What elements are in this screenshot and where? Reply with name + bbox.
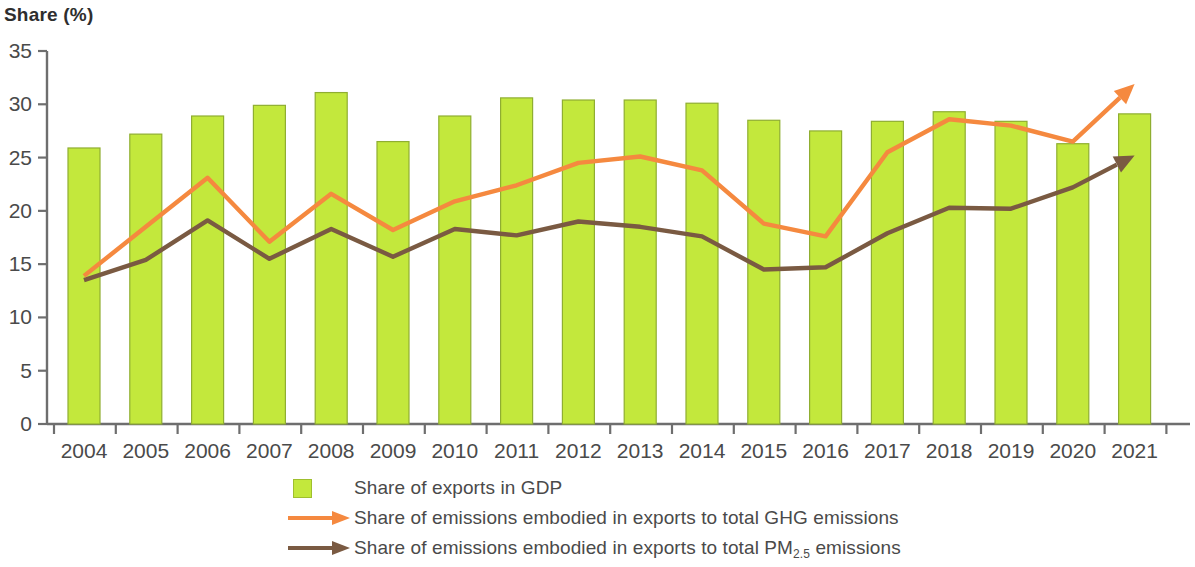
x-axis-ticks xyxy=(54,424,1166,434)
bar xyxy=(439,116,471,424)
chart-container: Share (%) 35302520151050 200420052006200… xyxy=(0,0,1195,567)
x-tick-label: 2010 xyxy=(431,439,478,462)
legend-label-ghg: Share of emissions embodied in exports t… xyxy=(354,507,899,529)
y-tick-label: 0 xyxy=(20,412,32,435)
chart-plot-area: 35302520151050 2004200520062007200820092… xyxy=(0,0,1195,470)
x-tick-label: 2020 xyxy=(1049,439,1096,462)
bar-series-exports-gdp xyxy=(68,93,1151,424)
bar xyxy=(995,121,1027,424)
legend-label-pm25: Share of emissions embodied in exports t… xyxy=(354,537,901,559)
bar xyxy=(130,134,162,424)
legend-label-pm25-prefix: Share of emissions embodied in exports t… xyxy=(354,537,793,558)
y-tick-label: 5 xyxy=(20,359,32,382)
bar xyxy=(810,131,842,424)
x-tick-label: 2019 xyxy=(988,439,1035,462)
x-tick-label: 2017 xyxy=(864,439,911,462)
y-tick-label: 20 xyxy=(9,199,32,222)
bar xyxy=(562,100,594,424)
y-tick-label: 10 xyxy=(9,305,32,328)
legend-label-pm25-suffix: emissions xyxy=(810,537,901,558)
legend-marker-brown-arrow xyxy=(288,537,354,559)
legend-marker-square xyxy=(288,479,354,498)
x-tick-label: 2021 xyxy=(1111,439,1158,462)
x-tick-label: 2007 xyxy=(246,439,293,462)
x-tick-label: 2004 xyxy=(61,439,108,462)
bar xyxy=(253,105,285,424)
legend-item-pm25: Share of emissions embodied in exports t… xyxy=(288,534,1108,562)
x-tick-label: 2009 xyxy=(370,439,417,462)
legend-marker-orange-arrow xyxy=(288,507,354,529)
x-tick-label: 2011 xyxy=(494,439,539,462)
y-tick-label: 35 xyxy=(9,39,32,62)
x-tick-label: 2016 xyxy=(802,439,849,462)
y-tick-label: 30 xyxy=(9,92,32,115)
x-tick-label: 2006 xyxy=(184,439,231,462)
chart-legend: Share of exports in GDP Share of emissio… xyxy=(288,474,1108,564)
x-tick-label: 2015 xyxy=(740,439,787,462)
x-tick-label: 2014 xyxy=(679,439,726,462)
arrow-right-brown-icon xyxy=(288,537,354,559)
bar xyxy=(68,148,100,424)
bar xyxy=(501,98,533,424)
bar xyxy=(686,103,718,424)
y-tick-label: 25 xyxy=(9,146,32,169)
legend-label-exports-gdp: Share of exports in GDP xyxy=(354,477,562,499)
x-tick-label: 2013 xyxy=(617,439,664,462)
bar xyxy=(933,112,965,424)
legend-item-exports-gdp: Share of exports in GDP xyxy=(288,474,1108,502)
line-series-ghg xyxy=(84,84,1135,276)
y-axis-ticks: 35302520151050 xyxy=(9,39,47,435)
y-tick-label: 15 xyxy=(9,252,32,275)
green-square-icon xyxy=(293,479,312,498)
bar xyxy=(315,93,347,424)
line-series-pm25 xyxy=(84,155,1135,280)
legend-item-ghg: Share of emissions embodied in exports t… xyxy=(288,504,1108,532)
arrow-right-orange-icon xyxy=(288,507,354,529)
x-tick-label: 2018 xyxy=(926,439,973,462)
bar xyxy=(624,100,656,424)
bar xyxy=(748,120,780,424)
bar xyxy=(192,116,224,424)
x-tick-label: 2012 xyxy=(555,439,602,462)
legend-label-pm25-subscript: 2.5 xyxy=(793,547,810,561)
x-axis-labels: 2004200520062007200820092010201120122013… xyxy=(61,439,1158,462)
bar xyxy=(377,142,409,424)
x-tick-label: 2008 xyxy=(308,439,355,462)
x-tick-label: 2005 xyxy=(122,439,169,462)
